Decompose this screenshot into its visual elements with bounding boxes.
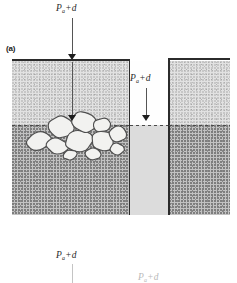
interface-line-channel: [130, 125, 168, 126]
right-block-liquid-region: [169, 125, 230, 215]
pressure-term-d: d: [72, 250, 77, 260]
panel-label-a: (a): [6, 44, 15, 53]
pressure-term-d: d: [146, 73, 151, 83]
left-block-liquid-region: [12, 125, 130, 215]
figure-panel-a: (a) Pa+d Pa+d Pa+d Pa+d: [0, 0, 237, 283]
interior-pressure-arrow-line: [72, 62, 73, 118]
interface-line-right: [169, 125, 230, 126]
pressure-label-top: Pa+d: [56, 3, 77, 13]
channel-pressure-arrow-head: [142, 115, 150, 121]
pressure-subscript-a: a: [62, 255, 65, 261]
pressure-term-d: d: [154, 272, 159, 282]
bottom-left-pressure-arrow-line: [72, 264, 73, 283]
pressure-term-d: d: [72, 3, 77, 13]
top-center-pressure-arrow-line: [72, 18, 73, 58]
pressure-label-bottom-left: Pa+d: [56, 250, 77, 260]
right-block-left-edge: [168, 58, 170, 215]
pressure-label-bottom-right: Pa+d: [138, 272, 159, 282]
interior-pressure-arrow-head: [68, 115, 76, 121]
interface-line-left: [12, 125, 130, 126]
left-block-top-edge: [12, 59, 130, 61]
pressure-subscript-a: a: [62, 8, 65, 14]
channel-lower-liquid: [130, 125, 168, 215]
right-block-top-edge: [168, 58, 230, 60]
pressure-label-channel: Pa+d: [130, 73, 151, 83]
right-block-gas-region: [169, 61, 230, 125]
pressure-subscript-a: a: [144, 277, 147, 283]
channel-pressure-arrow-line: [146, 88, 147, 118]
pressure-subscript-a: a: [136, 78, 139, 84]
